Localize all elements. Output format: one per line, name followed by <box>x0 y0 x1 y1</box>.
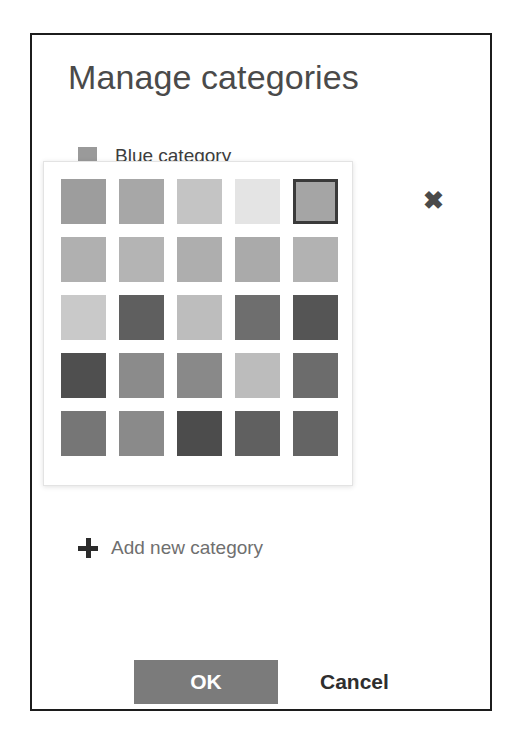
color-swatch[interactable] <box>235 353 280 398</box>
color-swatch[interactable] <box>177 237 222 282</box>
color-swatch[interactable] <box>119 179 164 224</box>
color-swatch[interactable] <box>61 237 106 282</box>
color-swatch[interactable] <box>61 295 106 340</box>
add-new-category-button[interactable]: Add new category <box>78 537 263 559</box>
color-swatch-grid <box>61 179 338 456</box>
color-swatch[interactable] <box>61 179 106 224</box>
close-icon[interactable]: ✖ <box>418 185 448 215</box>
page-root: Manage categories Blue category Green ca… <box>0 0 509 742</box>
cancel-button[interactable]: Cancel <box>320 660 450 704</box>
color-swatch[interactable] <box>177 353 222 398</box>
plus-icon <box>78 538 98 558</box>
color-swatch[interactable] <box>235 237 280 282</box>
ok-button[interactable]: OK <box>134 660 278 704</box>
color-swatch[interactable] <box>119 237 164 282</box>
color-swatch[interactable] <box>293 295 338 340</box>
color-swatch[interactable] <box>293 411 338 456</box>
color-swatch[interactable] <box>235 295 280 340</box>
color-swatch[interactable] <box>177 295 222 340</box>
color-picker-popup <box>43 161 353 486</box>
color-swatch[interactable] <box>119 353 164 398</box>
color-swatch[interactable] <box>293 237 338 282</box>
color-swatch[interactable] <box>293 353 338 398</box>
color-swatch[interactable] <box>177 411 222 456</box>
color-swatch[interactable] <box>119 411 164 456</box>
color-swatch[interactable] <box>61 353 106 398</box>
color-swatch[interactable] <box>293 179 338 224</box>
page-title: Manage categories <box>68 58 359 97</box>
add-new-category-label: Add new category <box>111 537 263 559</box>
color-swatch[interactable] <box>235 411 280 456</box>
color-swatch[interactable] <box>119 295 164 340</box>
color-swatch[interactable] <box>61 411 106 456</box>
color-swatch[interactable] <box>235 179 280 224</box>
color-swatch[interactable] <box>177 179 222 224</box>
